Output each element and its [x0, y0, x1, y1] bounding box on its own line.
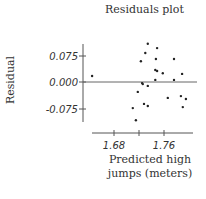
- data-point: [173, 79, 175, 81]
- data-point: [167, 97, 169, 99]
- data-point: [135, 119, 137, 121]
- data-point: [156, 47, 158, 49]
- data-point: [147, 85, 149, 87]
- data-point: [173, 58, 175, 60]
- data-point: [144, 52, 146, 54]
- data-point: [181, 73, 183, 75]
- data-point: [162, 72, 164, 74]
- data-point: [91, 75, 93, 77]
- data-point: [147, 105, 149, 107]
- data-point: [137, 91, 139, 93]
- data-point: [147, 43, 149, 45]
- data-point: [154, 79, 156, 81]
- data-point: [143, 103, 145, 105]
- data-point: [140, 60, 142, 62]
- data-point: [142, 83, 144, 85]
- data-point: [155, 58, 157, 60]
- data-point: [180, 95, 182, 97]
- plot-area: [0, 0, 206, 199]
- data-point: [185, 98, 187, 100]
- data-point: [182, 106, 184, 108]
- data-point: [132, 107, 134, 109]
- data-point: [156, 70, 158, 72]
